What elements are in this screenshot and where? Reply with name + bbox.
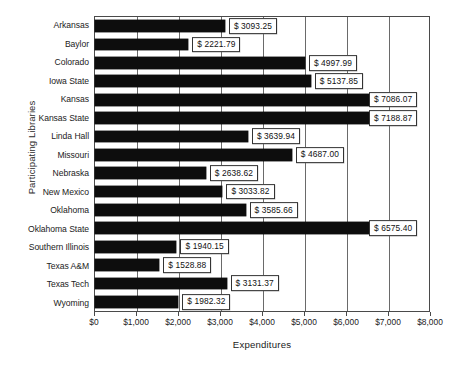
category-label: Texas A&M xyxy=(18,257,92,276)
bar xyxy=(95,20,225,32)
bar xyxy=(95,204,246,216)
bar-row: $ 7188.87 xyxy=(95,109,429,127)
bar xyxy=(95,222,371,234)
y-axis-category-labels: ArkansasBaylorColoradoIowa StateKansasKa… xyxy=(18,16,92,312)
x-axis-tick xyxy=(262,312,263,316)
bar xyxy=(95,39,188,51)
x-axis-tick-label: $7,000 xyxy=(375,317,401,327)
category-label: Kansas xyxy=(18,90,92,109)
bar xyxy=(95,112,397,124)
bar-row: $ 1940.15 xyxy=(95,238,429,256)
bar-row: $ 7086.07 xyxy=(95,91,429,109)
category-label: Colorado xyxy=(18,53,92,72)
category-label: Kansas State xyxy=(18,109,92,128)
bar-value-label: $ 3639.94 xyxy=(252,129,300,145)
x-axis-tick-label: $4,000 xyxy=(249,317,275,327)
bar xyxy=(95,131,248,143)
bar-row: $ 2638.62 xyxy=(95,164,429,182)
bar xyxy=(95,296,178,308)
bar-value-label: $ 1940.15 xyxy=(180,239,228,255)
bar-rows: $ 3093.25$ 2221.79$ 4997.99$ 5137.85$ 70… xyxy=(95,17,429,311)
bar xyxy=(95,149,292,161)
bar-value-label: $ 1528.88 xyxy=(163,257,211,273)
x-axis-tick-label: $0 xyxy=(89,317,98,327)
bar-row: $ 1528.88 xyxy=(95,256,429,274)
bar-value-label: $ 1982.32 xyxy=(182,294,230,310)
category-label: Southern Illinois xyxy=(18,238,92,257)
bar-value-label: $ 7188.87 xyxy=(369,110,417,126)
bar xyxy=(95,278,227,290)
x-axis-tick xyxy=(94,312,95,316)
bar-row: $ 3639.94 xyxy=(95,127,429,145)
bar-row: $ 4997.99 xyxy=(95,54,429,72)
x-axis-tick-label: $2,000 xyxy=(165,317,191,327)
x-axis-tick-label: $5,000 xyxy=(291,317,317,327)
x-axis-tick-labels: $0$1,000$2,000$3,000$4,000$5,000$6,000$7… xyxy=(94,317,430,331)
bar-row: $ 3131.37 xyxy=(95,274,429,292)
bar-value-label: $ 4997.99 xyxy=(309,55,357,71)
x-axis-tick-label: $3,000 xyxy=(207,317,233,327)
category-label: Wyoming xyxy=(18,294,92,313)
category-label: Baylor xyxy=(18,35,92,54)
x-axis-tick xyxy=(178,312,179,316)
x-axis-tick xyxy=(220,312,221,316)
x-axis-tick xyxy=(388,312,389,316)
category-label: Arkansas xyxy=(18,16,92,35)
category-label: Nebraska xyxy=(18,164,92,183)
bar-row: $ 2221.79 xyxy=(95,35,429,53)
bar-value-label: $ 3033.82 xyxy=(226,184,274,200)
bar xyxy=(95,167,206,179)
bar xyxy=(95,57,305,69)
x-axis-tick xyxy=(136,312,137,316)
bar-value-label: $ 2638.62 xyxy=(210,165,258,181)
bar xyxy=(95,259,159,271)
bar-value-label: $ 4687.00 xyxy=(296,147,344,163)
category-label: Oklahoma xyxy=(18,201,92,220)
bar xyxy=(95,94,393,106)
bar-row: $ 4687.00 xyxy=(95,146,429,164)
bar-row: $ 5137.85 xyxy=(95,72,429,90)
plot-area: $ 3093.25$ 2221.79$ 4997.99$ 5137.85$ 70… xyxy=(94,16,430,312)
category-label: Missouri xyxy=(18,146,92,165)
bar-value-label: $ 6575.40 xyxy=(369,220,417,236)
bar-value-label: $ 3131.37 xyxy=(231,276,279,292)
x-axis-tick xyxy=(304,312,305,316)
x-axis-tick xyxy=(430,312,431,316)
bar-row: $ 3033.82 xyxy=(95,182,429,200)
bar-value-label: $ 5137.85 xyxy=(315,73,363,89)
bar-row: $ 3585.66 xyxy=(95,201,429,219)
x-axis-tick-label: $6,000 xyxy=(333,317,359,327)
x-axis-title: Expenditures xyxy=(94,339,430,350)
bar xyxy=(95,241,176,253)
x-axis-tick xyxy=(346,312,347,316)
bar-row: $ 6575.40 xyxy=(95,219,429,237)
x-axis-tick-label: $8,000 xyxy=(417,317,443,327)
category-label: New Mexico xyxy=(18,183,92,202)
category-label: Oklahoma State xyxy=(18,220,92,239)
category-label: Iowa State xyxy=(18,72,92,91)
bar-value-label: $ 3093.25 xyxy=(229,18,277,34)
bar-value-label: $ 2221.79 xyxy=(192,37,240,53)
bar-value-label: $ 7086.07 xyxy=(369,92,417,108)
bar-value-label: $ 3585.66 xyxy=(250,202,298,218)
x-axis-tick-label: $1,000 xyxy=(123,317,149,327)
category-label: Texas Tech xyxy=(18,275,92,294)
category-label: Linda Hall xyxy=(18,127,92,146)
bar-row: $ 3093.25 xyxy=(95,17,429,35)
bar-row: $ 1982.32 xyxy=(95,293,429,311)
bar-chart: Participating Libraries ArkansasBaylorCo… xyxy=(0,0,469,370)
bar xyxy=(95,186,222,198)
bar xyxy=(95,75,311,87)
